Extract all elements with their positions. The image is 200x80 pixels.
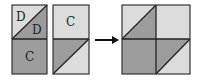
piece-left: D D C <box>12 5 47 74</box>
label-p1-top-lower: D <box>32 23 42 37</box>
label-p2-top: C <box>66 15 75 29</box>
piece-middle: C <box>53 5 89 74</box>
result-bl-dark <box>122 39 156 74</box>
label-p1-top-upper: D <box>16 10 26 24</box>
assembled-square <box>122 5 190 74</box>
label-p1-bottom: C <box>25 50 34 64</box>
right-arrow-icon <box>95 36 119 44</box>
quilt-diagram: D D C C <box>0 0 200 80</box>
result-tr-light <box>156 5 190 39</box>
